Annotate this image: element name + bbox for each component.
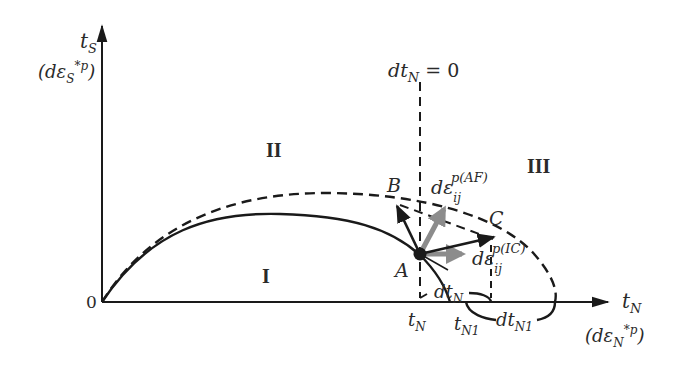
- dtn1-arc: [466, 302, 496, 320]
- y-axis-alt-label: (dεS*p): [38, 59, 95, 86]
- initial-yield-curve: [102, 214, 450, 302]
- dtn1-label: dtN1: [496, 309, 533, 334]
- point-c-label: C: [489, 207, 504, 229]
- region-1-label: I: [262, 265, 270, 287]
- tn1-label: tN1: [454, 313, 479, 338]
- af-vector-label: dεijp(AF): [431, 170, 488, 205]
- region-3-label: III: [527, 155, 551, 177]
- point-a-dot: [414, 248, 427, 261]
- dtn-zero-label: dtN = 0: [388, 59, 459, 85]
- dtn-arc: [469, 293, 491, 302]
- yield-surface-diagram: tS (dεS*p) 0 tN (dεN*p) I II III dtN = 0…: [0, 0, 679, 365]
- x-axis-label: tN: [622, 289, 642, 316]
- point-a-label: A: [393, 259, 409, 281]
- origin-label: 0: [86, 292, 97, 312]
- dtn1-arc-right: [537, 302, 555, 320]
- y-axis-label: tS: [80, 29, 97, 56]
- point-b-label: B: [386, 174, 401, 196]
- tn-tick-arrow: [420, 294, 427, 298]
- ic-vector-label: dεijp(IC): [472, 241, 525, 276]
- x-axis-alt-label: (dεN*p): [585, 323, 644, 350]
- tn-label: tN: [408, 309, 426, 334]
- region-2-label: II: [266, 139, 282, 161]
- b-c-dashed-line: [400, 205, 493, 239]
